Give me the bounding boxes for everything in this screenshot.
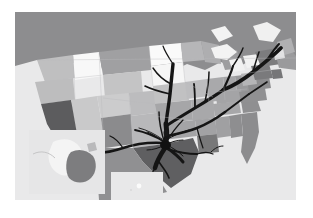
state-nj-de-md: [271, 69, 283, 79]
state-nd: [149, 43, 183, 66]
state-or: [35, 78, 75, 104]
state-az: [101, 114, 133, 148]
alaska-inset: [29, 130, 105, 194]
alaska-south: [66, 150, 96, 183]
state-al: [229, 114, 243, 138]
state-id: [73, 52, 103, 80]
hawaii-island: [137, 184, 142, 189]
hawaii-inset: [111, 172, 163, 200]
state-ms: [215, 116, 231, 138]
hawaii-islet: [130, 189, 132, 191]
map-panel: [15, 12, 296, 200]
us-choropleth-flow-map: [15, 12, 296, 200]
figure-container: [0, 0, 313, 218]
state-la: [197, 134, 219, 154]
